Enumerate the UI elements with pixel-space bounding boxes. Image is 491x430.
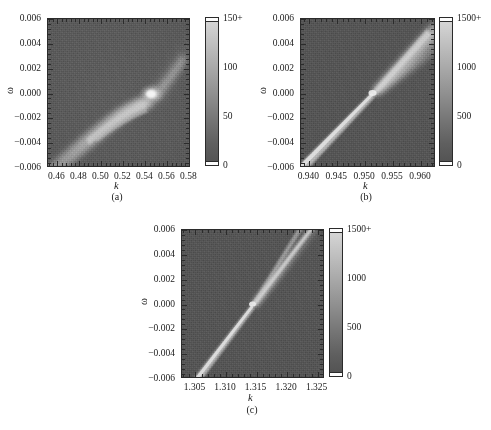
panel-b-yticklabel: 0.000: [245, 88, 294, 98]
panel-c-colorbar-ticklabel: 1500+: [347, 224, 371, 234]
panel-a-ytick-minor: [48, 108, 51, 109]
panel-b-ytick-major: [301, 94, 306, 95]
panel-b-xtick-top-minor: [415, 19, 416, 22]
panel-b-yticklabel: −0.006: [245, 162, 294, 172]
panel-b-ytick-right-minor: [431, 64, 434, 65]
panel-c-ytick-right-minor: [320, 339, 323, 340]
panel-a-xtick-top-minor: [150, 19, 151, 22]
panel-c-ytick-right-major: [318, 354, 323, 355]
panel-b-xtick-top-major: [393, 19, 394, 24]
panel-b-colorbar: 1500+10005000: [439, 18, 453, 165]
panel-a-yticklabel: −0.006: [0, 162, 41, 172]
panel-a-ytick-right-minor: [186, 163, 189, 164]
panel-a-xtick-minor: [84, 163, 85, 166]
panel-a-xtick-minor: [128, 163, 129, 166]
panel-a-xticklabel: 0.50: [92, 171, 109, 181]
panel-c-xtick-top-minor: [250, 230, 251, 233]
panel-b-ytick-minor: [301, 34, 304, 35]
panel-a-xtick-major: [167, 161, 168, 166]
panel-b-xtick-top-major: [365, 19, 366, 24]
panel-b-xtick-top-minor: [387, 19, 388, 22]
panel-b-ytick-minor: [301, 59, 304, 60]
panel-b-ytick-right-minor: [431, 79, 434, 80]
panel-a-heatmap-image: [48, 19, 189, 166]
panel-a-ytick-minor: [48, 59, 51, 60]
panel-b-ytick-minor: [301, 108, 304, 109]
panel-c-ytick-minor: [182, 265, 185, 266]
panel-b-xtick-minor: [371, 163, 372, 166]
panel-c-xtick-minor: [214, 374, 215, 377]
panel-c-yticklabel: 0.000: [123, 299, 175, 309]
panel-a-ytick-minor: [48, 49, 51, 50]
panel-a-plot-area: [47, 18, 190, 167]
panel-a-xtick-minor: [181, 163, 182, 166]
panel-b-xtick-minor: [427, 163, 428, 166]
panel-a-ytick-right-minor: [186, 103, 189, 104]
panel-a-ytick-right-minor: [186, 74, 189, 75]
panel-c-xticklabel: 1.320: [275, 382, 296, 392]
panel-a-xtick-top-major: [189, 19, 190, 24]
panel-b-xaxis-title: k: [363, 180, 368, 191]
panel-b-xtick-major: [337, 161, 338, 166]
panel-a-xtick-top-major: [79, 19, 80, 24]
panel-a-colorbar-ticklabel: 0: [223, 160, 228, 170]
panel-b-ytick-right-major: [429, 69, 434, 70]
panel-c-xtick-minor: [250, 374, 251, 377]
panel-c-ytick-right-minor: [320, 369, 323, 370]
panel-c-xtick-top-major: [195, 230, 196, 235]
panel-b-ytick-major: [301, 19, 306, 20]
panel-a-ytick-minor: [48, 123, 51, 124]
panel-b-ytick-right-minor: [431, 163, 434, 164]
panel-c-xtick-minor: [202, 374, 203, 377]
panel-c-xtick-top-major: [257, 230, 258, 235]
panel-a-yticklabel: 0.004: [0, 38, 41, 48]
panel-c-xtick-top-minor: [220, 230, 221, 233]
panel-a-ytick-right-minor: [186, 158, 189, 159]
panel-a-xticklabel: 0.58: [180, 171, 197, 181]
panel-a-ytick-right-major: [184, 19, 189, 20]
panel-a-ytick-minor: [48, 54, 51, 55]
panel-c-xtick-minor: [244, 374, 245, 377]
panel-b-ytick-right-minor: [431, 133, 434, 134]
panel-a-colorbar-ticklabel: 150+: [223, 13, 243, 23]
panel-a-xtick-minor: [150, 163, 151, 166]
panel-a-ytick-right-minor: [186, 39, 189, 40]
panel-a-ytick-right-minor: [186, 84, 189, 85]
panel-a-xtick-top-minor: [110, 19, 111, 22]
panel-c-plot-area: [181, 229, 324, 378]
panel-c: k ω (c) 1500+10005000 1.3051.3101.3151.3…: [123, 215, 373, 430]
panel-b-ytick-minor: [301, 89, 304, 90]
panel-a-xtick-major: [123, 161, 124, 166]
panel-c-yticklabel: −0.004: [123, 348, 175, 358]
panel-c-ytick-right-major: [318, 329, 323, 330]
panel-b-xtick-top-minor: [399, 19, 400, 22]
panel-b-ytick-right-minor: [431, 113, 434, 114]
panel-b-xtick-minor: [415, 163, 416, 166]
panel-b-xtick-top-major: [309, 19, 310, 24]
panel-c-xtick-top-minor: [281, 230, 282, 233]
panel-a-xtick-top-minor: [154, 19, 155, 22]
panel-a-xtick-minor: [53, 163, 54, 166]
panel-c-xtick-minor: [238, 374, 239, 377]
panel-c-xticklabel: 1.305: [184, 382, 205, 392]
panel-c-colorbar-over-cap: [329, 228, 343, 233]
panel-a-xtick-major: [57, 161, 58, 166]
panel-b-xtick-minor: [354, 163, 355, 166]
panel-a-xtick-minor: [154, 163, 155, 166]
panel-b-ytick-minor: [301, 74, 304, 75]
panel-a-xtick-minor: [93, 163, 94, 166]
panel-c-ytick-minor: [182, 275, 185, 276]
panel-a-xticklabel: 0.56: [158, 171, 175, 181]
panel-c-xtick-minor: [220, 374, 221, 377]
panel-b-xtick-minor: [343, 163, 344, 166]
panel-a-ytick-right-minor: [186, 64, 189, 65]
panel-a-xtick-minor: [66, 163, 67, 166]
panel-c-ytick-right-minor: [320, 285, 323, 286]
panel-a-xtick-minor: [119, 163, 120, 166]
panel-a-yticklabel: 0.002: [0, 63, 41, 73]
panel-c-xtick-major: [195, 372, 196, 377]
panel-c-xtick-top-minor: [269, 230, 270, 233]
panel-b-ytick-minor: [301, 128, 304, 129]
panel-b-ytick-minor: [301, 133, 304, 134]
panel-c-colorbar-under-cap: [329, 372, 343, 377]
